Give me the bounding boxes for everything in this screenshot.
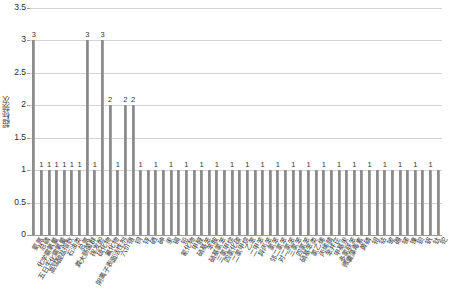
x-axis-tick-label: 铊 <box>439 236 449 246</box>
bar-value-label: 1 <box>291 161 295 169</box>
bar <box>399 170 402 235</box>
bar <box>32 40 35 235</box>
y-tick-label: 0.5 <box>2 198 26 207</box>
bar <box>40 170 43 235</box>
bar <box>132 105 135 235</box>
bar <box>345 170 348 235</box>
bar <box>246 170 249 235</box>
figure-caption <box>0 288 447 296</box>
bar <box>147 170 150 235</box>
bar <box>162 170 165 235</box>
bar <box>292 170 295 235</box>
bar <box>154 170 157 235</box>
bar <box>215 170 218 235</box>
bar <box>238 170 241 235</box>
bar-value-label: 1 <box>383 161 387 169</box>
bar-value-label: 1 <box>322 161 326 169</box>
bar-value-label: 1 <box>62 161 66 169</box>
bar <box>48 170 51 235</box>
bar-value-label: 2 <box>123 96 127 104</box>
bar-value-label: 1 <box>337 161 341 169</box>
bar <box>368 170 371 235</box>
bar-value-label: 1 <box>398 161 402 169</box>
bar-value-label: 1 <box>93 161 97 169</box>
bar <box>429 170 432 235</box>
bar-value-label: 1 <box>169 161 173 169</box>
bar <box>185 170 188 235</box>
bar-value-label: 3 <box>32 31 36 39</box>
bar <box>322 170 325 235</box>
bar <box>124 105 127 235</box>
bar <box>299 170 302 235</box>
bar-value-label: 2 <box>108 96 112 104</box>
bar <box>421 170 424 235</box>
bar-value-label: 1 <box>306 161 310 169</box>
bar <box>360 170 363 235</box>
bar-value-label: 1 <box>230 161 234 169</box>
y-tick-label: 1 <box>2 165 26 174</box>
bar <box>269 170 272 235</box>
bar-value-label: 1 <box>154 161 158 169</box>
bar <box>86 40 89 235</box>
bar <box>261 170 264 235</box>
bar <box>437 170 440 235</box>
bar-value-label: 1 <box>261 161 265 169</box>
bar-value-label: 1 <box>413 161 417 169</box>
x-axis-labels: 氨氮总磷化学需氧量五日生化需氧量高锰酸盐指数石油类总氮粪大肠菌群挥发酚硫化物氟化… <box>30 236 442 296</box>
bar-value-label: 1 <box>352 161 356 169</box>
bar <box>55 170 58 235</box>
plot-area: 00.511.522.533.5 31111113132122111111111… <box>30 8 442 235</box>
bar-value-label: 1 <box>200 161 204 169</box>
bar <box>383 170 386 235</box>
bar-value-label: 3 <box>85 31 89 39</box>
bar-value-label: 3 <box>100 31 104 39</box>
bar-value-label: 1 <box>47 161 51 169</box>
bar <box>231 170 234 235</box>
bar <box>70 170 73 235</box>
bar-value-label: 1 <box>139 161 143 169</box>
bar <box>63 170 66 235</box>
bar <box>93 170 96 235</box>
bar-value-label: 2 <box>131 96 135 104</box>
bar <box>139 170 142 235</box>
bar-value-label: 1 <box>367 161 371 169</box>
bar-value-label: 1 <box>245 161 249 169</box>
bar-value-label: 1 <box>70 161 74 169</box>
bar <box>116 170 119 235</box>
bar <box>338 170 341 235</box>
bar-value-label: 1 <box>39 161 43 169</box>
bar-value-label: 1 <box>77 161 81 169</box>
bar <box>307 170 310 235</box>
bar <box>406 170 409 235</box>
bar-value-label: 1 <box>184 161 188 169</box>
bar <box>193 170 196 235</box>
bar-value-label: 1 <box>116 161 120 169</box>
bar-value-label: 1 <box>276 161 280 169</box>
y-tick-label: 0 <box>2 230 26 239</box>
y-tick-label: 2 <box>2 100 26 109</box>
bar <box>177 170 180 235</box>
bar-value-label: 1 <box>55 161 59 169</box>
y-tick-label: 3 <box>2 35 26 44</box>
bar <box>284 170 287 235</box>
bar <box>330 170 333 235</box>
bar <box>101 40 104 235</box>
bar-value-label: 1 <box>215 161 219 169</box>
bar <box>276 170 279 235</box>
bar <box>208 170 211 235</box>
bar <box>109 105 112 235</box>
bar <box>200 170 203 235</box>
y-tick-label: 1.5 <box>2 133 26 142</box>
bar <box>376 170 379 235</box>
bar <box>315 170 318 235</box>
bars-layer: 3111111313212211111111111111111111 <box>30 8 442 235</box>
bar <box>78 170 81 235</box>
bar <box>414 170 417 235</box>
bar-value-label: 1 <box>428 161 432 169</box>
bar <box>254 170 257 235</box>
y-tick-label: 2.5 <box>2 68 26 77</box>
bar <box>353 170 356 235</box>
bar <box>170 170 173 235</box>
bar <box>223 170 226 235</box>
